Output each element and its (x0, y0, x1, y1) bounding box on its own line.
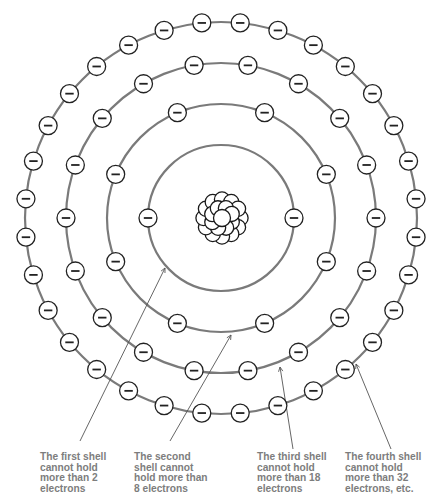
label-line: electrons (40, 484, 106, 495)
electron-minus-icon (60, 333, 78, 351)
electron-minus-icon (60, 85, 78, 103)
fourth-shell-label: The fourth shell cannot hold more than 3… (345, 452, 421, 494)
electron-minus-icon (120, 36, 138, 54)
electron-minus-icon (407, 190, 425, 208)
nucleon-icon (214, 210, 231, 227)
electron-minus-icon (135, 343, 153, 361)
electron-minus-icon (24, 266, 42, 284)
electron-minus-icon (290, 75, 308, 93)
electron-minus-icon (66, 262, 84, 280)
electron-minus-icon (231, 404, 249, 422)
label-line: The third shell (257, 452, 327, 463)
electron-minus-icon (317, 253, 335, 271)
electron-minus-icon (24, 152, 42, 170)
electron-minus-icon (231, 14, 249, 32)
second-shell-leader-arrow (170, 335, 231, 441)
third-shell-label: The third shell cannot hold more than 18… (257, 452, 327, 494)
electron-minus-icon (304, 36, 322, 54)
electron-minus-icon (407, 228, 425, 246)
electron-minus-icon (57, 209, 75, 227)
electron-minus-icon (39, 117, 57, 135)
electron-minus-icon (285, 209, 303, 227)
electron-minus-icon (385, 117, 403, 135)
electron-minus-icon (17, 228, 35, 246)
electron-minus-icon (107, 165, 125, 183)
electron-minus-icon (168, 104, 186, 122)
electron-minus-icon (304, 382, 322, 400)
electron-minus-icon (120, 382, 138, 400)
fourth-shell-leader-arrow (356, 364, 391, 449)
electron-minus-icon (239, 56, 257, 74)
electron-minus-icon (17, 190, 35, 208)
electron-minus-icon (364, 85, 382, 103)
electron-minus-icon (168, 314, 186, 332)
electron-minus-icon (256, 314, 274, 332)
electron-minus-icon (66, 156, 84, 174)
electron-minus-icon (93, 109, 111, 127)
electron-minus-icon (88, 57, 106, 75)
electron-minus-icon (367, 209, 385, 227)
electron-minus-icon (400, 152, 418, 170)
electron-minus-icon (331, 109, 349, 127)
label-line: 8 electrons (134, 484, 208, 495)
electron-minus-icon (88, 361, 106, 379)
electron-minus-icon (193, 14, 211, 32)
electron-minus-icon (256, 104, 274, 122)
second-shell-label: The second shell cannot hold more than 8… (134, 452, 208, 494)
electron-minus-icon (185, 56, 203, 74)
electron-minus-icon (155, 397, 173, 415)
electron-minus-icon (193, 404, 211, 422)
label-line: The fourth shell (345, 452, 421, 463)
electron-minus-icon (317, 165, 335, 183)
electron-minus-icon (331, 309, 349, 327)
electron-minus-icon (385, 301, 403, 319)
atom-shell-diagram (0, 0, 445, 504)
electron-minus-icon (135, 75, 153, 93)
electron-minus-icon (39, 301, 57, 319)
electron-minus-icon (239, 362, 257, 380)
electron-minus-icon (400, 266, 418, 284)
label-line: The first shell (40, 452, 106, 463)
electron-minus-icon (155, 21, 173, 39)
first-shell-label: The first shell cannot hold more than 2 … (40, 452, 106, 494)
label-line: electrons, etc. (345, 484, 421, 495)
electron-minus-icon (358, 156, 376, 174)
electron-minus-icon (185, 362, 203, 380)
electron-minus-icon (93, 309, 111, 327)
nucleus (196, 192, 248, 244)
electron-minus-icon (269, 397, 287, 415)
electron-minus-icon (364, 333, 382, 351)
label-line: electrons (257, 484, 327, 495)
electron-minus-icon (336, 361, 354, 379)
electron-minus-icon (290, 343, 308, 361)
electron-minus-icon (358, 262, 376, 280)
leader-lines (80, 268, 391, 449)
electron-minus-icon (336, 57, 354, 75)
electron-minus-icon (269, 21, 287, 39)
label-line: The second (134, 452, 208, 463)
electron-minus-icon (139, 209, 157, 227)
electron-minus-icon (107, 253, 125, 271)
